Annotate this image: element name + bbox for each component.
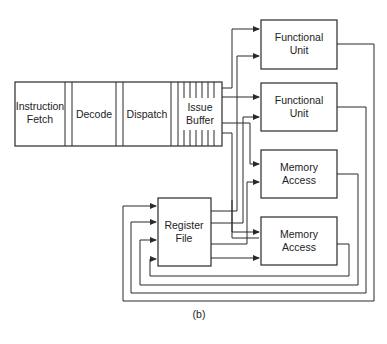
svg-text:Access: Access [282,241,316,253]
svg-text:Functional: Functional [275,94,323,106]
register-file: Register File [158,198,211,266]
svg-text:Functional: Functional [275,31,323,43]
svg-text:Register: Register [164,219,204,231]
stage-instruction-fetch-line2: Fetch [27,113,53,125]
memory-access-2: Memory Access [261,217,337,265]
svg-text:Memory: Memory [280,228,319,240]
pipeline-stages: Instruction Fetch Decode Dispatch Issue … [15,82,222,146]
superscalar-pipeline-diagram: Instruction Fetch Decode Dispatch Issue … [0,0,387,344]
issue-to-unit-arrows [222,29,259,232]
stage-decode: Decode [76,108,112,120]
functional-unit-2: Functional Unit [261,83,337,131]
stage-instruction-fetch-line1: Instruction [16,100,65,112]
svg-text:Unit: Unit [290,107,309,119]
svg-text:Access: Access [282,174,316,186]
figure-caption: (b) [193,308,206,320]
stage-dispatch: Dispatch [127,108,168,120]
stage-issue-buffer-line1: Issue [187,101,212,113]
functional-unit-1: Functional Unit [261,20,337,69]
svg-text:Memory: Memory [280,161,319,173]
memory-access-1: Memory Access [261,150,337,198]
svg-text:File: File [176,232,193,244]
svg-text:Unit: Unit [290,44,309,56]
stage-issue-buffer-line2: Buffer [186,114,214,126]
